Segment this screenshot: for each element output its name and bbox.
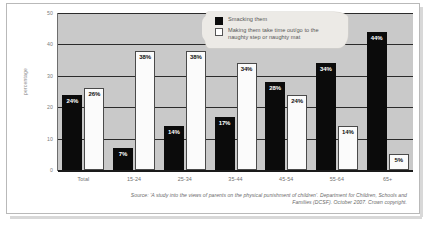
bar-value-label: 26% [85,91,103,97]
source-note: Source: 'A study into the views of paren… [120,192,407,207]
y-tick-label-10: 10 [47,136,53,142]
legend-item-smacking: Smacking them [215,16,267,25]
legend-swatch-light-icon [215,28,223,36]
bar-value-label: 7% [114,151,132,157]
bar-55-64-dark: 34% [316,63,336,170]
bar-value-label: 44% [368,35,386,41]
bar-value-label: 38% [187,54,205,60]
bar-Total-light: 26% [84,88,104,170]
bar-value-label: 34% [238,66,256,72]
x-axis-line [58,170,413,172]
legend-label-timeout: Making them take time out/go to the naug… [228,27,332,41]
bar-15-24-light: 38% [135,51,155,170]
x-tick-label-15-24: 15-24 [109,176,160,182]
y-tick-label-0: 0 [50,167,53,173]
bar-value-label: 24% [288,98,306,104]
x-axis-labels: Total15-2425-3435-4445-5455-6465+ [58,176,413,186]
bar-value-label: 5% [390,157,408,163]
y-tick-label-40: 40 [47,41,53,47]
y-axis-label: percentage [22,68,28,95]
y-tick-label-50: 50 [47,10,53,16]
bar-65plus-dark: 44% [367,32,387,170]
y-tick-label-30: 30 [47,73,53,79]
bar-35-44-light: 34% [237,63,257,170]
x-tick-label-55-64: 55-64 [312,176,363,182]
chart-figure: 01020304050 percentage 24%26%7%38%14%38%… [0,0,429,232]
x-tick-label-45-54: 45-54 [261,176,312,182]
bar-25-34-light: 38% [186,51,206,170]
bar-value-label: 14% [339,129,357,135]
figure-frame-shadow-right [420,7,423,217]
bar-value-label: 17% [216,120,234,126]
legend-item-timeout: Making them take time out/go to the naug… [215,27,332,41]
bar-45-54-light: 24% [287,95,307,170]
x-tick-label-65plus: 65+ [362,176,413,182]
x-tick-label-Total: Total [58,176,109,182]
bar-35-44-dark: 17% [215,117,235,170]
bar-value-label: 28% [266,85,284,91]
bar-value-label: 38% [136,54,154,60]
bar-25-34-dark: 14% [164,126,184,170]
bar-15-24-dark: 7% [113,148,133,170]
chart-legend: Smacking them Making them take time out/… [205,12,348,48]
x-tick-label-35-44: 35-44 [210,176,261,182]
bar-value-label: 24% [63,98,81,104]
figure-frame-shadow [10,216,422,219]
bar-Total-dark: 24% [62,95,82,170]
legend-label-smacking: Smacking them [228,16,267,23]
bar-value-label: 34% [317,66,335,72]
legend-swatch-dark-icon [215,17,223,25]
bar-45-54-dark: 28% [265,82,285,170]
bar-65plus-light: 5% [389,154,409,170]
bar-55-64-light: 14% [338,126,358,170]
x-tick-label-25-34: 25-34 [159,176,210,182]
source-line-1: Source: 'A study into the views of paren… [131,192,347,198]
y-axis-line [57,13,58,171]
y-tick-label-20: 20 [47,104,53,110]
bar-value-label: 14% [165,129,183,135]
